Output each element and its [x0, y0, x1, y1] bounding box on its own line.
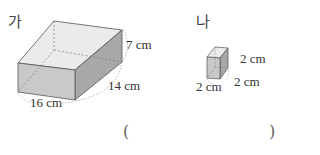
answer-close-paren: ) [269, 122, 275, 141]
dimension-width-na: 2 cm [196, 80, 222, 94]
answer-blank[interactable] [135, 124, 265, 142]
dimension-depth-ga: 14 cm [108, 79, 140, 93]
dimension-height-ga: 7 cm [126, 38, 152, 52]
dimension-width-ga: 16 cm [30, 96, 62, 110]
dimension-depth-na: 2 cm [234, 75, 260, 89]
dimension-height-na: 2 cm [240, 52, 266, 66]
answer-open-paren: ( [123, 122, 129, 141]
